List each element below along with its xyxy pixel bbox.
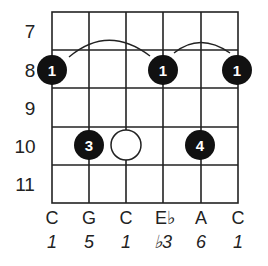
note-label: A [195, 208, 207, 228]
note-label: G [82, 208, 96, 228]
fret-label: 9 [25, 98, 36, 119]
fret-label: 10 [14, 136, 35, 157]
finger-dot: 1 [37, 55, 67, 85]
finger-dot: 4 [185, 130, 215, 160]
fretboard-frame [52, 12, 238, 203]
note-label: E♭ [155, 208, 175, 228]
fret-labels: 7 8 9 10 11 [14, 21, 35, 195]
svg-text:1: 1 [159, 62, 167, 79]
barre-arc [174, 43, 230, 54]
barre-arc [69, 40, 150, 57]
svg-text:4: 4 [196, 137, 205, 154]
interval-label: 6 [196, 232, 207, 252]
fret-label: 8 [25, 60, 36, 81]
svg-text:1: 1 [233, 62, 241, 79]
svg-text:1: 1 [48, 62, 56, 79]
note-label: C [232, 208, 245, 228]
interval-label: 1 [47, 232, 57, 252]
finger-dot: 3 [74, 130, 104, 160]
fret-label: 11 [15, 174, 35, 195]
fretboard-grid [52, 12, 238, 203]
interval-labels: 1 5 1 ♭3 6 1 [47, 232, 243, 252]
interval-label: 5 [84, 232, 95, 252]
note-label: C [120, 208, 133, 228]
barre-arcs [69, 40, 230, 57]
open-root-dot [111, 130, 141, 160]
finger-dot: 1 [222, 55, 252, 85]
finger-dot: 1 [148, 55, 178, 85]
note-label: C [46, 208, 59, 228]
interval-label: 1 [121, 232, 131, 252]
svg-text:3: 3 [85, 137, 93, 154]
interval-label: ♭3 [154, 232, 172, 252]
note-labels: C G C E♭ A C [46, 208, 245, 228]
finger-dots: 1 1 1 3 4 [37, 55, 252, 160]
chord-diagram: 7 8 9 10 11 1 1 1 3 4 [0, 0, 268, 266]
interval-label: 1 [233, 232, 243, 252]
fret-label: 7 [25, 21, 36, 42]
